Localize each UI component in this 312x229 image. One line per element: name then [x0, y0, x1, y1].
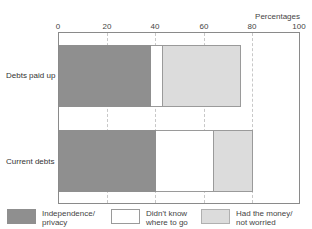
segment-independence [59, 45, 151, 107]
legend-swatch [111, 209, 140, 224]
plot-area [58, 32, 300, 204]
segment-independence [59, 130, 156, 192]
bar-debts-paid-up [59, 45, 241, 107]
segment-didnt-know [151, 45, 163, 107]
segment-didnt-know [156, 130, 214, 192]
legend-swatch [201, 209, 230, 224]
x-tick-0: 0 [56, 22, 60, 31]
legend-item-independence: Independence/ privacy [7, 209, 95, 227]
x-tick-20: 20 [103, 22, 112, 31]
axis-title: Percentages [255, 12, 300, 21]
segment-had-money [214, 130, 253, 192]
legend-item-had-money: Had the money/ not worried [201, 209, 292, 227]
legend-item-didnt-know: Didn't know where to go [111, 209, 188, 227]
legend-label: Didn't know where to go [146, 209, 188, 227]
legend-label: Independence/ privacy [42, 209, 95, 227]
legend-label: Had the money/ not worried [236, 209, 292, 227]
category-label: Current debts [6, 157, 54, 166]
x-tick-60: 60 [200, 22, 209, 31]
x-tick-40: 40 [151, 22, 160, 31]
segment-had-money [163, 45, 241, 107]
category-label: Debts paid up [6, 71, 55, 80]
bar-current-debts [59, 130, 253, 192]
x-tick-100: 100 [292, 22, 305, 31]
legend-swatch [7, 209, 36, 224]
x-tick-80: 80 [248, 22, 257, 31]
